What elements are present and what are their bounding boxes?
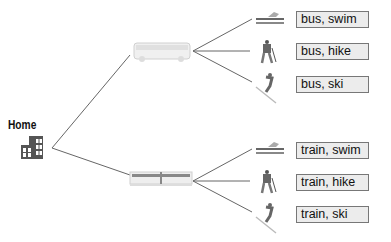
outcome-box: bus, swim (296, 11, 369, 28)
swim-icon (256, 12, 284, 24)
ski-icon (256, 73, 276, 103)
hike-icon (262, 40, 276, 63)
branch-train-ski (193, 181, 252, 212)
hike-icon (262, 170, 276, 193)
outcome-box: train, hike (296, 174, 369, 191)
branch-home-train (52, 148, 130, 175)
tree-diagram: Home bus, swim bus, hike bus, ski train,… (0, 0, 391, 242)
branch-home-bus (52, 55, 130, 148)
branch-bus-ski (193, 51, 252, 82)
ski-icon (256, 203, 276, 233)
house-icon (21, 136, 43, 159)
outcome-box: train, swim (296, 142, 369, 159)
branch-bus-swim (193, 19, 252, 51)
outcome-box: bus, ski (296, 76, 369, 93)
bus-icon (134, 43, 190, 62)
outcome-box: bus, hike (296, 43, 369, 60)
swim-icon (256, 142, 284, 154)
train-icon (130, 172, 192, 186)
outcome-box: train, ski (296, 206, 369, 223)
root-label: Home (8, 118, 36, 132)
branch-train-swim (193, 149, 252, 181)
